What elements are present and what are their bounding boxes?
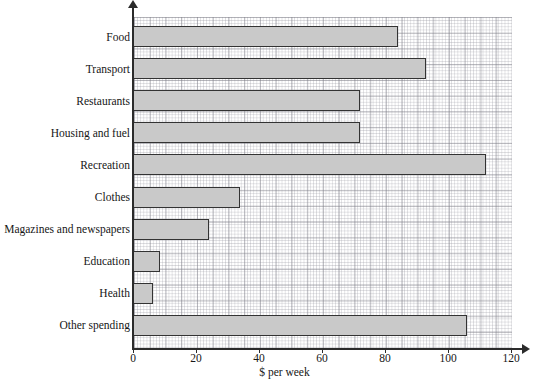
- bar: [133, 154, 486, 175]
- category-label: Restaurants: [2, 95, 130, 107]
- bar-chart: FoodTransportRestaurantsHousing and fuel…: [0, 0, 539, 383]
- bar: [133, 187, 240, 208]
- category-label: Food: [2, 31, 130, 43]
- bar: [133, 315, 467, 336]
- bar: [133, 90, 360, 111]
- category-label: Health: [2, 287, 130, 299]
- category-label: Recreation: [2, 159, 130, 171]
- bar: [133, 26, 398, 47]
- x-tick-label: 100: [439, 352, 456, 364]
- bar: [133, 283, 153, 304]
- x-axis-arrow-icon: [522, 344, 530, 354]
- category-axis-labels: FoodTransportRestaurantsHousing and fuel…: [0, 0, 130, 383]
- category-label: Education: [2, 255, 130, 267]
- x-axis-title: $ per week: [0, 366, 539, 378]
- x-tick-label: 0: [130, 352, 136, 364]
- bar: [133, 122, 360, 143]
- y-axis-line: [132, 6, 134, 350]
- x-tick-label: 80: [379, 352, 391, 364]
- x-axis-title-text: $ per week: [259, 366, 309, 378]
- bar: [133, 251, 160, 272]
- category-label: Transport: [2, 63, 130, 75]
- category-label: Clothes: [2, 191, 130, 203]
- category-label: Other spending: [2, 319, 130, 331]
- bar: [133, 219, 209, 240]
- category-label: Magazines and newspapers: [2, 223, 130, 235]
- x-axis-line: [132, 348, 524, 350]
- x-tick-label: 20: [190, 352, 202, 364]
- bar: [133, 58, 426, 79]
- category-label: Housing and fuel: [2, 127, 130, 139]
- x-tick-label: 60: [316, 352, 328, 364]
- x-tick-label: 40: [253, 352, 265, 364]
- y-axis-arrow-icon: [128, 0, 138, 8]
- x-tick-label: 120: [502, 352, 519, 364]
